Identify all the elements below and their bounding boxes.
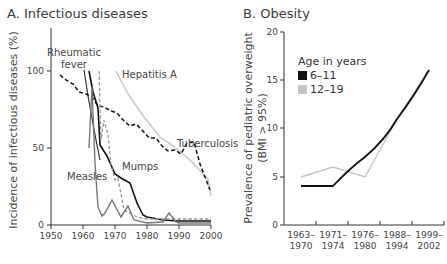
b-x-cat-4-bot: 2002 [418, 241, 441, 251]
b-x-cat-4-top: 1999– [415, 230, 443, 240]
y-axis-label-b-1: Prevalence of pediatric overweight [242, 32, 255, 224]
y-tick-0: 0 [38, 220, 44, 230]
x-tick-1990: 1990 [168, 231, 191, 241]
legend-item-12-19: 12–19 [298, 82, 367, 96]
x-tick-1980: 1980 [136, 231, 159, 241]
b-y-tick-0: 0 [272, 220, 278, 230]
b-x-cat-3-top: 1988– [383, 230, 411, 240]
label-rheumatic: Rheumatic [47, 47, 101, 58]
x-tick-2000: 2000 [200, 231, 223, 241]
y-tick-100: 100 [27, 66, 44, 76]
legend-label-12-19: 12–19 [310, 83, 344, 96]
b-x-cat-3-bot: 1994 [386, 241, 409, 251]
b-x-cat-2-top: 1976– [351, 230, 379, 240]
x-tick-1950: 1950 [40, 231, 63, 241]
label-fever: fever [61, 59, 88, 70]
legend-swatch-black [298, 71, 307, 80]
x-tick-1960: 1960 [72, 231, 95, 241]
legend-item-6-11: 6–11 [298, 68, 367, 82]
legend-b: Age in years 6–11 12–19 [298, 54, 367, 96]
b-x-cat-0-top: 1963– [287, 230, 315, 240]
b-y-tick-15: 15 [267, 75, 278, 85]
legend-label-6-11: 6–11 [310, 69, 337, 82]
b-x-cat-2-bot: 1980 [354, 241, 377, 251]
b-x-cat-1-top: 1971– [319, 230, 347, 240]
legend-swatch-gray [298, 85, 307, 94]
x-tick-1970: 1970 [104, 231, 127, 241]
chart-a-axes: 0 50 100 1950 1960 1970 1980 1990 2000 I… [7, 28, 223, 241]
b-y-tick-5: 5 [272, 172, 278, 182]
b-x-cat-0-bot: 1970 [290, 241, 313, 251]
y-axis-label-a: Incidence of infectious diseases (%) [7, 31, 20, 229]
label-mumps: Mumps [122, 161, 158, 172]
series-hepatitis-a [116, 71, 211, 196]
charts-canvas: 0 50 100 1950 1960 1970 1980 1990 2000 I… [0, 0, 447, 264]
label-hepatitis-a: Hepatitis A [122, 69, 177, 80]
b-x-cat-1-bot: 1974 [322, 241, 345, 251]
label-tuberculosis: Tuberculosis [176, 138, 238, 149]
b-y-tick-20: 20 [267, 27, 279, 37]
legend-title: Age in years [298, 54, 367, 68]
y-axis-label-b-2: (BMI > 95%) [256, 93, 269, 163]
label-measles: Measles [67, 171, 107, 182]
y-tick-50: 50 [33, 143, 45, 153]
